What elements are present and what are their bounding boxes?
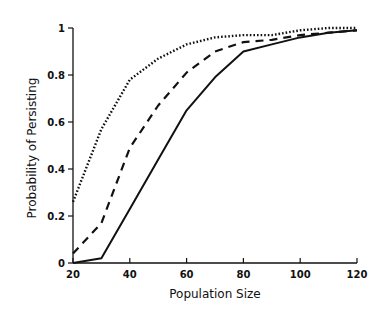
y-tick-label: 0.6 — [47, 117, 65, 128]
x-tick-label: 60 — [180, 269, 194, 280]
y-axis-label: Probability of Persisting — [25, 78, 39, 219]
line-chart: 2040608010012000.20.40.60.81 Population … — [0, 0, 384, 313]
x-tick-label: 20 — [66, 269, 80, 280]
y-tick-label: 0 — [58, 258, 65, 269]
y-tick-label: 0.4 — [47, 164, 65, 175]
axes: 2040608010012000.20.40.60.81 — [47, 23, 367, 280]
series-dotted-line — [73, 28, 357, 202]
series-dashed-line — [73, 30, 357, 253]
x-axis-label: Population Size — [169, 287, 261, 301]
x-tick-label: 120 — [347, 269, 368, 280]
x-tick-label: 100 — [290, 269, 311, 280]
x-tick-label: 40 — [123, 269, 137, 280]
series-lines — [73, 28, 357, 263]
y-tick-label: 0.2 — [47, 211, 65, 222]
x-tick-label: 80 — [236, 269, 250, 280]
y-tick-label: 0.8 — [47, 70, 65, 81]
y-tick-label: 1 — [58, 23, 65, 34]
series-solid-line — [73, 30, 357, 263]
